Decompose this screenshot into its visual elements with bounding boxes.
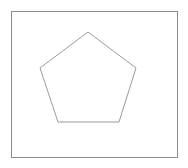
figure-svg (0, 0, 188, 168)
bounding-box-frame (12, 12, 178, 158)
figure-canvas (0, 0, 188, 168)
pentagon-shape (40, 32, 136, 122)
